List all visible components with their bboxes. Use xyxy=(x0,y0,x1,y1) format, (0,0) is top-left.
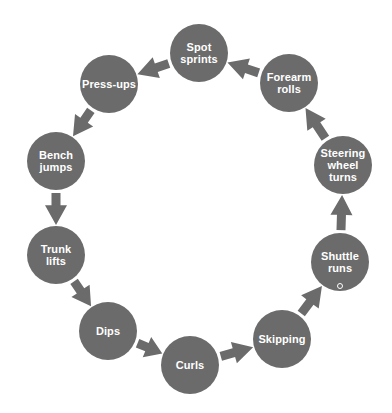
node-label-spot-sprints: Spot sprints xyxy=(164,41,234,65)
node-label-skipping: Skipping xyxy=(247,333,317,345)
arrow-shuttle-runs-to-steering-wheel-turns xyxy=(330,195,353,231)
node-label-forearm-rolls: Forearm rolls xyxy=(254,71,324,95)
node-label-trunk-lifts: Trunk lifts xyxy=(21,243,91,267)
node-label-dips: Dips xyxy=(73,325,143,337)
node-label-curls: Curls xyxy=(155,359,225,371)
node-label-steering-wheel-turns: Steering wheel turns xyxy=(308,147,378,183)
node-label-bench-jumps: Bench jumps xyxy=(21,149,91,173)
node-label-press-ups: Press-ups xyxy=(74,78,144,90)
arrow-bench-jumps-to-trunk-lifts xyxy=(45,193,67,225)
start-marker-icon xyxy=(337,283,343,289)
node-label-shuttle-runs: Shuttle runs xyxy=(305,250,375,274)
